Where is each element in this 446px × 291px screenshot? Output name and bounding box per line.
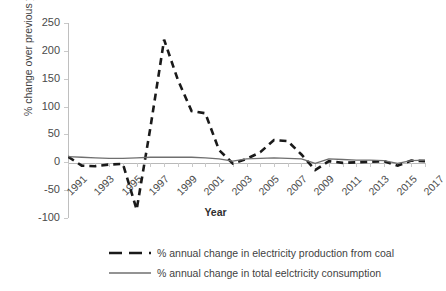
legend-item-label: % annual change in electricity productio… xyxy=(157,247,394,259)
y-axis-tick-label: 100 xyxy=(26,101,60,112)
legend-item: % annual change in electricity productio… xyxy=(108,243,428,263)
legend-item-label: % annual change in total eelctricity con… xyxy=(157,267,381,279)
legend-item: % annual change in total eelctricity con… xyxy=(108,263,428,283)
y-axis-tick-mark xyxy=(64,218,68,219)
y-axis-tick-label: 50 xyxy=(26,128,60,139)
y-axis-tick-label: 0 xyxy=(26,156,60,167)
chart-legend: % annual change in electricity productio… xyxy=(108,243,428,283)
y-axis-tick-label: 150 xyxy=(26,73,60,84)
solid-line-swatch xyxy=(108,268,152,278)
plot-area xyxy=(68,23,425,218)
series-line-coal-production xyxy=(68,40,425,210)
x-axis-tick-mark xyxy=(425,163,426,167)
y-axis-tick-label: 250 xyxy=(26,17,60,28)
y-axis-tick-label: 200 xyxy=(26,45,60,56)
dashed-line-swatch xyxy=(108,248,152,258)
series-line-total-consumption xyxy=(68,157,425,164)
y-axis-tick-label: -50 xyxy=(26,184,60,195)
